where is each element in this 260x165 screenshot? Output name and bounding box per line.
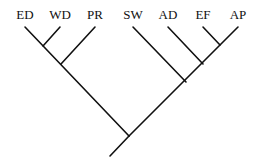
branch-pr bbox=[61, 27, 95, 64]
root-stem bbox=[110, 136, 129, 156]
branch-ad bbox=[168, 27, 203, 64]
branch-wd bbox=[43, 27, 60, 46]
taxon-label-wd: WD bbox=[49, 7, 71, 22]
taxon-label-sw: SW bbox=[123, 7, 143, 22]
cladogram: ED WD PR SW AD EF AP bbox=[0, 0, 260, 165]
taxon-label-pr: PR bbox=[87, 7, 103, 22]
taxon-label-ef: EF bbox=[195, 7, 210, 22]
branch-sw bbox=[133, 27, 186, 82]
taxon-label-ad: AD bbox=[159, 7, 178, 22]
taxon-label-ap: AP bbox=[230, 7, 247, 22]
branch-ef bbox=[203, 27, 220, 45]
branch-ed-to-root bbox=[25, 27, 129, 136]
taxon-label-ed: ED bbox=[16, 7, 33, 22]
